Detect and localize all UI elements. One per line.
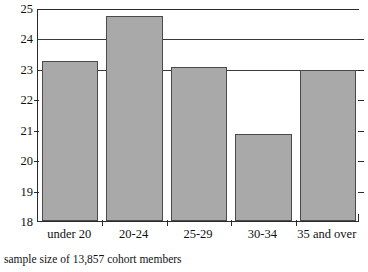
y-axis-tick-label: 23 [3,64,33,77]
chart-caption: sample size of 13,857 cohort members [4,253,182,265]
x-axis-category-label: 25-29 [166,228,230,242]
y-axis-tick-label: 20 [3,155,33,168]
y-axis-labels: 1819202122232425 [0,9,33,222]
y-axis-tick-label: 19 [3,185,33,198]
bar-chart: 1819202122232425 under 2020-2425-2930-34… [0,0,368,272]
bar-slot [231,9,295,221]
x-axis-labels: under 2020-2425-2930-3435 and over [37,228,359,248]
bar [171,67,227,221]
bar-slot [296,9,360,221]
x-axis-category-label: 30-34 [230,228,294,242]
y-axis-tick-label: 25 [3,3,33,16]
bar [300,70,356,221]
y-axis-tick-label: 21 [3,124,33,137]
x-axis-category-label: 20-24 [101,228,165,242]
bar-slot [38,9,102,221]
bar-slot [102,9,166,221]
bar [106,16,162,221]
axis-right-stub [358,214,359,221]
x-axis-category-label: under 20 [37,228,101,242]
bar [42,61,98,221]
bar [235,134,291,221]
x-axis-category-label: 35 and over [295,228,359,242]
plot-area [37,9,359,222]
bar-series [38,9,359,221]
y-axis-tick-label: 22 [3,94,33,107]
bar-slot [167,9,231,221]
y-axis-tick-label: 24 [3,33,33,46]
y-axis-tick-label: 18 [3,216,33,229]
